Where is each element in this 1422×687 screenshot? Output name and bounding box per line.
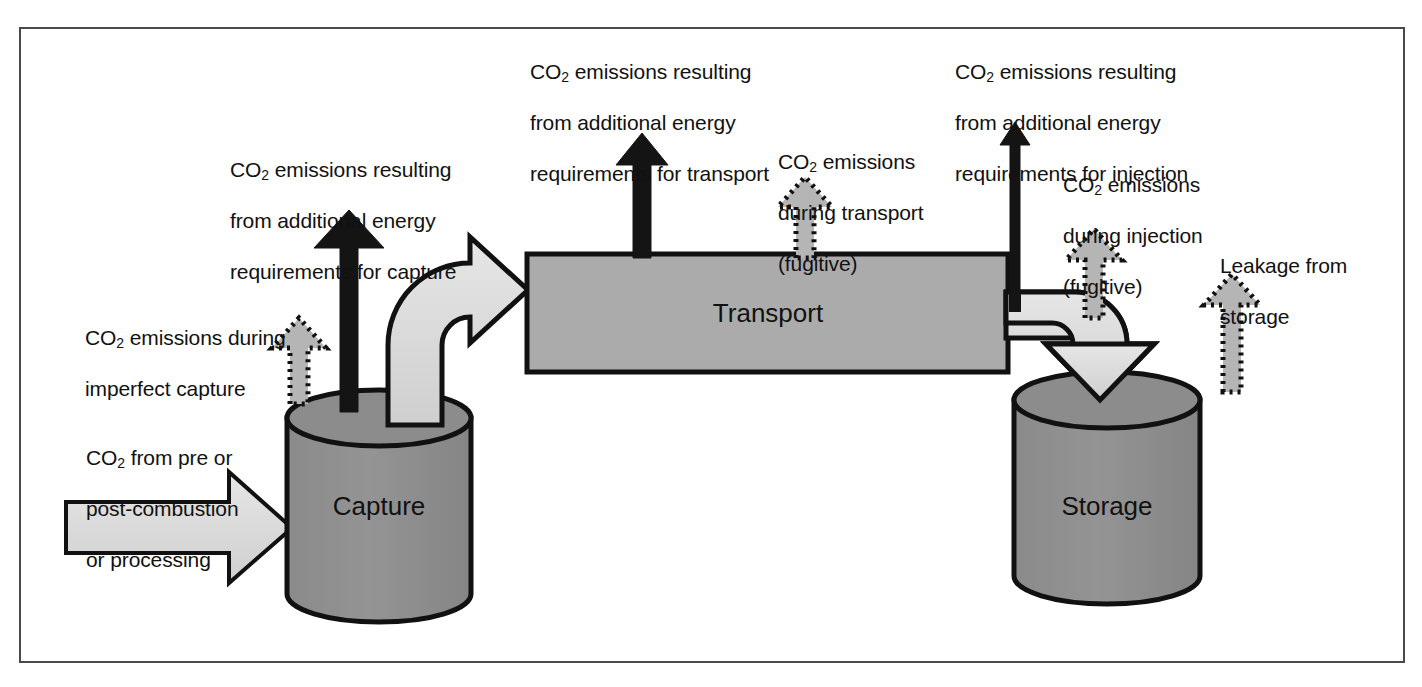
transport-fugitive-line1: CO2 emissions [778,150,915,173]
figure-canvas: Capture Transport Storage CO2 from pre o… [0,0,1422,687]
injection-energy-line2: from additional energy [955,111,1161,134]
capture-energy-label: CO2 emissions resulting from additional … [207,131,456,310]
injection-fugitive-line2: during injection [1063,224,1203,247]
injection-fugitive-label: CO2 emissions during injection (fugitive… [1040,146,1203,325]
input-stream-label: CO2 from pre or post-combustion or proce… [63,419,239,598]
transport-energy-line2: from additional energy [530,111,736,134]
transport-fugitive-label: CO2 emissions during transport (fugitive… [755,123,923,302]
imperfect-capture-line2: imperfect capture [85,377,246,400]
imperfect-capture-label: CO2 emissions during imperfect capture [62,299,286,427]
transport-energy-line1: CO2 emissions resulting [530,60,751,83]
transport-fugitive-line2: during transport [778,201,923,224]
injection-fugitive-line1: CO2 emissions [1063,173,1200,196]
input-stream-line2: post-combustion [86,497,239,520]
input-stream-line1: CO2 from pre or [86,446,232,469]
input-stream-line3: or processing [86,548,211,571]
injection-energy-line1: CO2 emissions resulting [955,60,1176,83]
transport-energy-line3: requirements for transport [530,162,769,185]
capture-energy-line1: CO2 emissions resulting [230,158,451,181]
capture-node-label: Capture [299,491,459,522]
leakage-storage-label: Leakage from storage [1197,227,1347,355]
capture-energy-line3: requirements for capture [230,260,456,283]
storage-node-label: Storage [1027,491,1187,522]
transport-node-label: Transport [648,298,888,329]
transport-fugitive-line3: (fugitive) [778,252,858,275]
leakage-storage-line2: storage [1220,305,1289,328]
transport-energy-label: CO2 emissions resulting from additional … [507,33,769,212]
leakage-storage-line1: Leakage from [1220,254,1347,277]
injection-fugitive-line3: (fugitive) [1063,275,1143,298]
capture-energy-line2: from additional energy [230,209,436,232]
imperfect-capture-line1: CO2 emissions during [85,326,286,349]
